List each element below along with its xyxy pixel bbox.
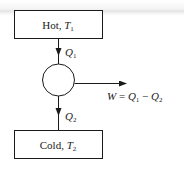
- heat-engine-diagram: Hot, T1 Q1 W = Q1 − Q2 Q2 Cold, T2: [0, 0, 184, 170]
- heat-in-arrow: Q1: [56, 38, 77, 64]
- hot-reservoir-label: Hot, T1: [42, 19, 74, 33]
- work-arrow: W = Q1 − Q2: [75, 84, 164, 105]
- engine-circle: [43, 64, 75, 96]
- hot-reservoir-box: Hot, T1: [15, 11, 103, 39]
- heat-out-label: Q2: [65, 110, 77, 124]
- arrow-down-icon: [56, 48, 62, 56]
- cold-reservoir-box: Cold, T2: [15, 131, 103, 159]
- arrow-down-icon: [56, 108, 62, 116]
- work-equation: W = Q1 − Q2: [107, 90, 163, 104]
- cold-reservoir-label: Cold, T2: [40, 139, 77, 153]
- heat-in-label: Q1: [65, 46, 77, 60]
- heat-out-arrow: Q2: [56, 96, 77, 130]
